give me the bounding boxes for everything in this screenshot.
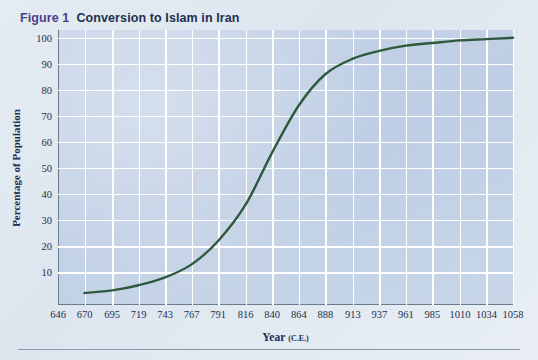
y-tick-label: 50 <box>42 163 53 174</box>
chart-plot-area: 102030405060708090100 646670695719743767… <box>58 30 513 305</box>
x-axis-title: Year(C.E.) <box>58 327 513 345</box>
figure-caption: Figure 1Conversion to Islam in Iran <box>20 8 240 26</box>
x-tick-label: 646 <box>50 309 66 320</box>
curve-path <box>85 38 514 293</box>
gridline-vertical <box>513 30 514 305</box>
x-tick-label: 1058 <box>503 309 524 320</box>
x-tick-label: 1010 <box>449 309 470 320</box>
y-tick-label: 90 <box>42 58 53 69</box>
x-tick-label: 695 <box>104 309 120 320</box>
x-tick-label: 1034 <box>476 309 497 320</box>
x-tick-label: 743 <box>157 309 173 320</box>
x-tick-label: 937 <box>371 309 387 320</box>
x-tick-label: 913 <box>345 309 361 320</box>
y-tick-label: 40 <box>42 189 53 200</box>
figure-number: Figure 1 <box>20 11 69 25</box>
y-tick-label: 60 <box>42 136 53 147</box>
conversion-curve <box>58 30 513 305</box>
x-tick-label: 840 <box>264 309 280 320</box>
figure-title: Conversion to Islam in Iran <box>76 11 239 25</box>
x-tick-label: 888 <box>317 309 333 320</box>
y-tick-label: 10 <box>42 267 53 278</box>
x-tick-label: 719 <box>131 309 147 320</box>
y-axis-title: Percentage of Population <box>8 30 24 305</box>
y-tick-label: 80 <box>42 84 53 95</box>
y-axis-title-text: Percentage of Population <box>10 109 22 227</box>
x-axis-title-text: Year <box>262 331 285 343</box>
x-tick-label: 791 <box>210 309 226 320</box>
x-tick-label: 961 <box>398 309 414 320</box>
x-tick-label: 985 <box>425 309 441 320</box>
y-tick-label: 100 <box>36 32 52 43</box>
x-tick-label: 767 <box>184 309 200 320</box>
x-tick-label: 864 <box>291 309 307 320</box>
page-rule <box>18 349 520 350</box>
y-tick-label: 20 <box>42 241 53 252</box>
x-axis-title-suffix: (C.E.) <box>288 334 308 343</box>
y-tick-label: 30 <box>42 215 53 226</box>
x-tick-label: 670 <box>77 309 93 320</box>
figure-page: Figure 1Conversion to Islam in Iran Perc… <box>0 0 538 360</box>
x-tick-label: 816 <box>238 309 254 320</box>
y-tick-label: 70 <box>42 110 53 121</box>
